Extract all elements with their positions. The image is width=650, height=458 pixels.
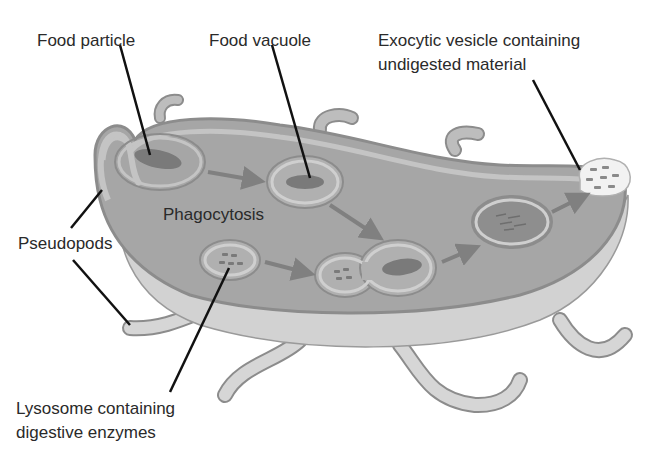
clipped-title — [0, 0, 200, 6]
leader-pseudopod-lower — [73, 260, 130, 325]
exocytic-vesicle — [579, 158, 630, 196]
label-food-vacuole: Food vacuole — [209, 31, 311, 50]
leader-exocytic-vesicle — [533, 80, 580, 170]
phagocytosis-diagram: Food particle Food vacuole Exocytic vesi… — [0, 0, 650, 458]
label-pseudopods: Pseudopods — [18, 234, 113, 253]
label-phagocytosis: Phagocytosis — [163, 205, 264, 224]
label-lysosome-line1: Lysosome containing — [16, 399, 175, 418]
label-exocytic-line2: undigested material — [378, 55, 526, 74]
label-food-particle: Food particle — [37, 31, 135, 50]
label-exocytic-line1: Exocytic vesicle containing — [378, 31, 580, 50]
leader-pseudopod-upper — [71, 190, 102, 228]
lysosome — [200, 240, 260, 280]
label-lysosome-line2: digestive enzymes — [16, 423, 156, 442]
digestive-vacuole — [472, 196, 552, 248]
